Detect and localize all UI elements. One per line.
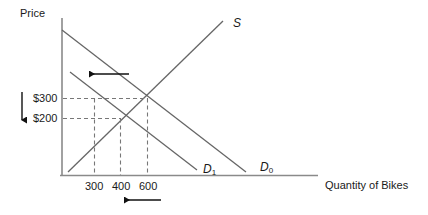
price-tick-label-200: $200 <box>33 113 57 124</box>
demand-curve-d1-label: D1 <box>203 163 216 175</box>
quantity-tick-label-400: 400 <box>112 181 130 192</box>
supply-demand-figure: Price Quantity of Bikes $300 $200 300 40… <box>0 0 428 215</box>
x-axis-title: Quantity of Bikes <box>325 180 408 191</box>
quantity-tick-label-600: 600 <box>139 181 157 192</box>
demand-d1-label-text: D <box>203 162 212 176</box>
supply-curve-label: S <box>233 17 241 29</box>
demand-d1-label-sub: 1 <box>212 168 216 177</box>
price-tick-label-300: $300 <box>33 93 57 104</box>
demand-d0-label-sub: 0 <box>269 166 273 175</box>
demand-curve-d1 <box>70 72 197 170</box>
supply-curve-label-text: S <box>233 16 241 30</box>
y-axis-title: Price <box>20 8 45 19</box>
demand-curve-d0-label: D0 <box>260 161 273 173</box>
quantity-tick-label-300: 300 <box>85 181 103 192</box>
demand-d0-label-text: D <box>260 160 269 174</box>
supply-curve-s <box>68 21 223 172</box>
